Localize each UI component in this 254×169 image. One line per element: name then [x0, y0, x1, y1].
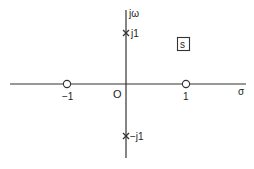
sigma-label: σ — [238, 86, 245, 97]
s-plane-label: s — [180, 39, 185, 50]
zero-label-pos1: 1 — [183, 91, 189, 102]
origin-label: O — [113, 88, 122, 100]
pole-zero-diagram: jω σ O −1 1 j1 −j1 s — [0, 0, 254, 169]
zero-label-neg1: −1 — [62, 91, 74, 102]
zero-marker-neg1 — [63, 80, 70, 87]
jomega-label: jω — [128, 8, 139, 19]
pole-label-j1: j1 — [130, 28, 139, 39]
zero-marker-pos1 — [182, 80, 189, 87]
pole-label-neg-j1: −j1 — [130, 131, 144, 142]
